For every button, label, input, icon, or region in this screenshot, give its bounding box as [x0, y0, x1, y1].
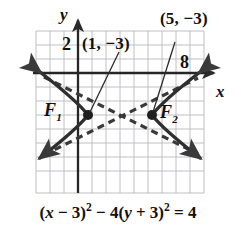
focus-right-label: (5, −3) [160, 10, 208, 27]
equation-caption: (x − 3)2 − 4(y + 3)2 = 4 [4, 201, 232, 223]
y-tick-label-2: 2 [62, 35, 71, 53]
focus-1-base: F [44, 100, 56, 120]
focus-point-left [83, 110, 93, 120]
focus-1-subscript: 1 [56, 111, 62, 123]
focus-1-label: F1 [44, 101, 62, 123]
eq-x-var: x [45, 203, 54, 222]
eq-equals: = 4 [170, 203, 197, 222]
focus-2-base: F [160, 102, 172, 122]
focus-2-label: F2 [160, 103, 178, 125]
x-tick-label-8: 8 [180, 53, 189, 71]
x-axis-label: x [216, 83, 225, 100]
eq-plus-three: + 3) [132, 203, 164, 222]
focus-left-label: (1, −3) [82, 35, 130, 52]
leader-line-left [90, 52, 119, 112]
eq-y-var: y [124, 203, 132, 222]
y-axis-label: y [60, 6, 68, 23]
focus-point-right [147, 110, 157, 120]
eq-minus-three: − 3) [54, 203, 86, 222]
eq-mid: − 4( [92, 203, 124, 222]
focus-2-subscript: 2 [172, 113, 178, 125]
